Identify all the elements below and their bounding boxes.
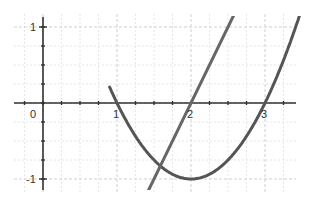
parabola-curve (110, 8, 302, 179)
x-tick-label-2: 2 (187, 108, 193, 120)
y-tick-label-1: 1 (30, 21, 36, 33)
axes (14, 17, 296, 190)
origin-label: 0 (30, 108, 36, 120)
x-tick-label-1: 1 (113, 108, 119, 120)
curves (110, 8, 302, 194)
function-plot: 0 1 2 3 1 -1 (0, 0, 317, 205)
y-tick-label-neg1: -1 (26, 173, 36, 185)
x-tick-label-3: 3 (261, 108, 267, 120)
